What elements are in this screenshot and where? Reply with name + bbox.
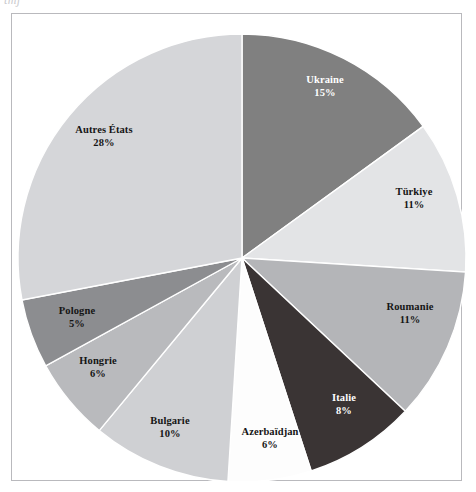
- pie-label-ukraine: Ukraine15%: [306, 73, 343, 100]
- pie-label-name: Türkiye: [396, 186, 433, 197]
- pie-label-t-rkiye: Türkiye11%: [396, 185, 433, 212]
- pie-label-value: 15%: [306, 86, 343, 99]
- pie-label-azerba-djan: Azerbaïdjan6%: [241, 425, 298, 452]
- pie-label-value: 11%: [396, 198, 433, 211]
- pie-label-name: Bulgarie: [150, 415, 189, 426]
- pie-label-name: Pologne: [59, 305, 95, 316]
- pie-label-name: Italie: [332, 392, 356, 403]
- pie-slice-autres-tats[interactable]: [18, 34, 242, 300]
- pie-label-value: 28%: [75, 136, 132, 149]
- pie-chart: Ukraine15%Türkiye11%Roumanie11%Italie8%A…: [0, 0, 476, 492]
- pie-label-value: 5%: [59, 317, 95, 330]
- pie-label-italie: Italie8%: [332, 391, 356, 418]
- pie-label-name: Roumanie: [387, 301, 434, 312]
- pie-label-bulgarie: Bulgarie10%: [150, 414, 189, 441]
- pie-label-value: 6%: [79, 367, 116, 380]
- pie-chart-svg: [0, 0, 476, 492]
- pie-label-value: 8%: [332, 404, 356, 417]
- pie-label-name: Azerbaïdjan: [241, 426, 298, 437]
- page-canvas: tmj Ukraine15%Türkiye11%Roumanie11%Itali…: [0, 0, 476, 492]
- pie-label-value: 6%: [241, 438, 298, 451]
- pie-label-autres-tats: Autres États28%: [75, 123, 132, 150]
- pie-label-pologne: Pologne5%: [59, 304, 95, 331]
- pie-label-name: Autres États: [75, 124, 132, 135]
- pie-label-name: Hongrie: [79, 355, 116, 366]
- pie-label-value: 11%: [387, 313, 434, 326]
- pie-label-roumanie: Roumanie11%: [387, 300, 434, 327]
- pie-label-value: 10%: [150, 427, 189, 440]
- pie-slice-group: [18, 34, 466, 482]
- pie-label-hongrie: Hongrie6%: [79, 354, 116, 381]
- pie-label-name: Ukraine: [306, 74, 343, 85]
